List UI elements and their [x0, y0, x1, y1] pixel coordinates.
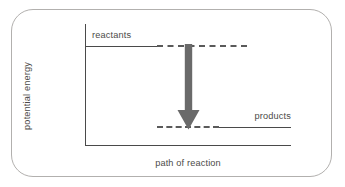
y-axis-label: potential energy: [22, 41, 32, 151]
x-axis-line: [85, 145, 291, 146]
reactants-dashed-extension-line: [157, 45, 247, 47]
products-label: products: [0, 111, 291, 121]
y-axis-line: [85, 24, 86, 146]
x-axis-label: path of reaction: [85, 158, 291, 168]
potential-energy-diagram: reactants products path of reaction pote…: [0, 0, 345, 187]
products-level-line: [219, 127, 291, 128]
reactants-label: reactants: [92, 30, 131, 40]
reactants-level-line: [85, 46, 157, 47]
